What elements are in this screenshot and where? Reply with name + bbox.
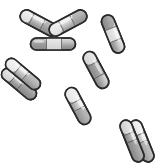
cell-triangle-rod-base xyxy=(31,38,76,50)
bacilli-scene xyxy=(0,0,162,168)
illustration-canvas: Grayscale illustration of rod-shaped bac… xyxy=(0,0,162,168)
